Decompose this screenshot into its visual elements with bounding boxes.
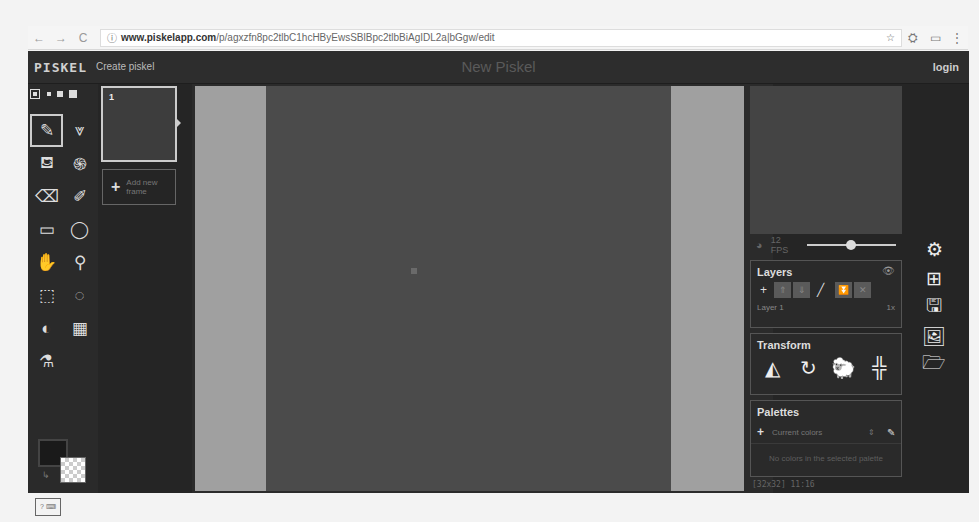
piskel-app: PISKEL Create piskel New Piskel login ✎⩔… bbox=[28, 51, 969, 493]
edit-layer-button[interactable]: ╱ bbox=[812, 282, 829, 298]
swap-colors-icon[interactable]: ↳ bbox=[42, 470, 50, 480]
extension-icon[interactable]: ⛭ bbox=[902, 31, 924, 45]
add-palette-button[interactable]: + bbox=[757, 425, 764, 439]
tool-section: ✎⩔⛾֍⌫✐▭◯✋⚲⬚◌◐▦⚗ ↳ ? ⌨ bbox=[28, 84, 98, 493]
drawing-area bbox=[192, 84, 773, 493]
flip-tool[interactable]: ◭ bbox=[758, 356, 788, 380]
paint-bucket-tool[interactable]: ⛾ bbox=[30, 147, 63, 180]
move-icon: ✋ bbox=[36, 252, 57, 273]
rotate-tool[interactable]: ↻ bbox=[793, 356, 823, 380]
palettes-title: Palettes bbox=[751, 401, 901, 421]
eraser-icon: ⌫ bbox=[35, 186, 59, 207]
layer-buttons: + ⇑ ⇓ ╱ ⏬ ✕ bbox=[751, 281, 901, 299]
app-header: PISKEL Create piskel New Piskel login bbox=[28, 51, 969, 84]
forward-icon[interactable]: → bbox=[50, 31, 72, 45]
rectangle-icon: ▭ bbox=[39, 219, 55, 240]
pen-size-4[interactable] bbox=[69, 90, 77, 98]
browser-menu-icon[interactable]: ⋮ bbox=[946, 31, 968, 45]
pen-icon: ✎ bbox=[40, 120, 54, 141]
stroke-tool[interactable]: ✐ bbox=[63, 180, 96, 213]
color-picker-tool[interactable]: ⚗ bbox=[30, 345, 63, 378]
dithering-tool[interactable]: ▦ bbox=[63, 312, 96, 345]
lighten-icon: ◐ bbox=[41, 319, 51, 339]
layers-panel: Layers 👁 + ⇑ ⇓ ╱ ⏬ ✕ Layer 1 1x bbox=[750, 260, 902, 328]
rectangle-selection-icon: ⬚ bbox=[39, 285, 55, 306]
vertical-mirror-pen-tool[interactable]: ⩔ bbox=[63, 114, 96, 147]
frame-number: 1 bbox=[109, 92, 114, 102]
settings-drawer: ⚙⊞🖫🖼🗁 bbox=[908, 84, 969, 493]
save-icon[interactable]: 🖫 bbox=[922, 295, 946, 319]
bookmark-star-icon[interactable]: ☆ bbox=[886, 32, 895, 43]
edit-palette-icon[interactable]: ✎ bbox=[887, 427, 895, 438]
url-host: www.piskelapp.com bbox=[121, 32, 216, 43]
palette-controls: + Current colors ⇕ ✎ bbox=[751, 421, 901, 444]
settings-icon[interactable]: ⚙ bbox=[922, 237, 946, 261]
cast-icon[interactable]: ▭ bbox=[924, 31, 946, 45]
shape-selection-icon: ⚲ bbox=[74, 252, 86, 273]
eraser-tool[interactable]: ⌫ bbox=[30, 180, 63, 213]
url-path: /p/agxzfn8pc2tlbC1hcHByEwsSBlBpc2tlbBiAg… bbox=[216, 32, 494, 43]
transform-title: Transform bbox=[751, 334, 901, 354]
back-icon[interactable]: ← bbox=[28, 31, 50, 45]
fps-slider[interactable] bbox=[807, 244, 896, 246]
frame-thumbnail[interactable]: 1 bbox=[101, 86, 177, 162]
paint-same-color-icon: ֍ bbox=[73, 152, 87, 175]
fps-label: 12 FPS bbox=[771, 235, 799, 255]
layer-opacity[interactable]: 1x bbox=[887, 303, 895, 312]
pen-size-1[interactable] bbox=[33, 92, 37, 96]
lasso-selection-icon: ◌ bbox=[74, 286, 84, 306]
vertical-mirror-pen-icon: ⩔ bbox=[75, 121, 85, 141]
pen-size-3[interactable] bbox=[57, 91, 63, 97]
import-icon[interactable]: 🗁 bbox=[922, 353, 946, 377]
fps-slider-thumb[interactable] bbox=[846, 240, 856, 250]
clone-tool[interactable]: 🐑 bbox=[829, 356, 859, 380]
delete-layer-button[interactable]: ✕ bbox=[854, 282, 871, 298]
resize-icon[interactable]: ⊞ bbox=[922, 266, 946, 290]
right-column: ◕ 12 FPS Layers 👁 + ⇑ ⇓ ╱ ⏬ ✕ Layer 1 1x bbox=[746, 84, 906, 493]
cursor-pixel-highlight bbox=[411, 268, 417, 274]
move-tool[interactable]: ✋ bbox=[30, 246, 63, 279]
frame-selected-arrow bbox=[177, 119, 181, 127]
circle-icon: ◯ bbox=[70, 219, 89, 240]
move-layer-up-button[interactable]: ⇑ bbox=[774, 282, 791, 298]
paint-same-color-tool[interactable]: ֍ bbox=[63, 147, 96, 180]
add-frame-label: Add new frame bbox=[126, 178, 164, 196]
pen-size-2[interactable] bbox=[47, 92, 51, 96]
animation-preview bbox=[750, 86, 902, 234]
keyboard-shortcuts-button[interactable]: ? ⌨ bbox=[35, 498, 61, 516]
add-layer-button[interactable]: + bbox=[755, 282, 772, 298]
pen-tool[interactable]: ✎ bbox=[30, 114, 63, 147]
layer-name: Layer 1 bbox=[757, 303, 784, 312]
drawing-canvas[interactable] bbox=[266, 86, 671, 491]
dithering-icon: ▦ bbox=[72, 318, 88, 339]
center-tool[interactable]: ╬ bbox=[864, 356, 894, 380]
add-icon: + bbox=[111, 178, 120, 196]
browser-toolbar: ← → C ⓘ www.piskelapp.com /p/agxzfn8pc2t… bbox=[28, 26, 968, 50]
onion-skin-icon[interactable]: ◕ bbox=[756, 239, 763, 251]
rectangle-tool[interactable]: ▭ bbox=[30, 213, 63, 246]
palette-empty-message: No colors in the selected palette bbox=[751, 444, 901, 463]
frames-list: 1 + Add new frame bbox=[98, 84, 190, 493]
rectangle-selection-tool[interactable]: ⬚ bbox=[30, 279, 63, 312]
cursor-coordinates: [32x32] 11:16 bbox=[752, 480, 815, 489]
reload-icon[interactable]: C bbox=[72, 31, 94, 45]
fps-controls: ◕ 12 FPS bbox=[750, 234, 902, 256]
toggle-layer-preview-icon[interactable]: 👁 bbox=[882, 265, 895, 276]
secondary-color-swatch[interactable] bbox=[60, 457, 86, 483]
shape-selection-tool[interactable]: ⚲ bbox=[63, 246, 96, 279]
circle-tool[interactable]: ◯ bbox=[63, 213, 96, 246]
lighten-tool[interactable]: ◐ bbox=[30, 312, 63, 345]
stroke-icon: ✐ bbox=[73, 186, 87, 207]
export-icon[interactable]: 🖼 bbox=[922, 324, 946, 348]
transform-tools: ◭↻🐑╬ bbox=[751, 354, 901, 382]
lasso-selection-tool[interactable]: ◌ bbox=[63, 279, 96, 312]
palette-select[interactable]: Current colors ⇕ bbox=[772, 428, 879, 437]
dropdown-icon: ⇕ bbox=[868, 428, 875, 437]
move-layer-down-button[interactable]: ⇓ bbox=[793, 282, 810, 298]
url-bar[interactable]: ⓘ www.piskelapp.com /p/agxzfn8pc2tlbC1hc… bbox=[100, 29, 902, 47]
login-link[interactable]: login bbox=[933, 61, 959, 73]
color-picker-icon: ⚗ bbox=[39, 351, 54, 372]
layer-item[interactable]: Layer 1 1x bbox=[751, 299, 901, 316]
add-frame-button[interactable]: + Add new frame bbox=[102, 169, 176, 205]
merge-layer-button[interactable]: ⏬ bbox=[835, 282, 852, 298]
